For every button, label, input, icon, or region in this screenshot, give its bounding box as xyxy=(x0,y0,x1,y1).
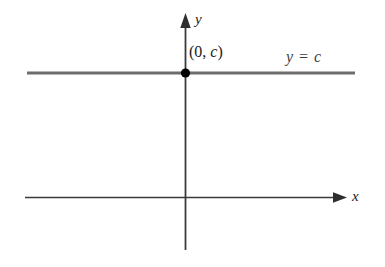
x-axis-arrowhead xyxy=(333,192,347,203)
y-axis-label: y xyxy=(195,12,202,27)
point-close-paren: ) xyxy=(217,43,222,60)
x-axis-label: x xyxy=(352,189,359,204)
y-axis-arrowhead xyxy=(180,13,190,28)
line-equation-label: y = c xyxy=(286,49,322,65)
y-intercept-label: (0, c) xyxy=(189,44,223,60)
constant-function-figure: y x (0, c) y = c xyxy=(0,0,385,267)
graph-canvas xyxy=(0,0,385,267)
y-intercept-point xyxy=(181,68,190,77)
